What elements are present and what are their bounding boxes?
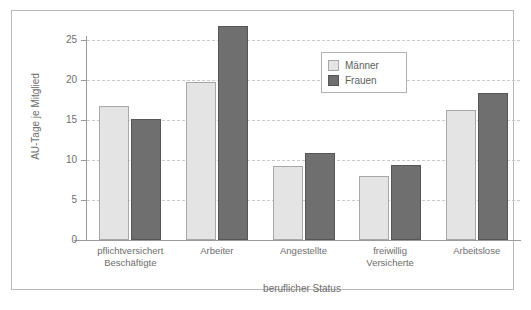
bar-maenner <box>99 106 129 240</box>
bar-maenner <box>186 82 216 240</box>
y-axis-tick-label: 0 <box>37 234 77 245</box>
y-axis-tick-label: 20 <box>37 74 77 85</box>
bar-frauen <box>131 119 161 240</box>
legend-item-frauen: Frauen <box>328 73 400 88</box>
legend-item-maenner: Männer <box>328 58 400 73</box>
y-axis-tick-label: 15 <box>37 114 77 125</box>
legend: Männer Frauen <box>321 52 407 93</box>
gridline <box>87 40 520 41</box>
legend-label-frauen: Frauen <box>345 75 377 86</box>
y-axis-tick-label: 10 <box>37 154 77 165</box>
bar-maenner <box>359 176 389 240</box>
bar-frauen <box>305 153 335 240</box>
legend-label-maenner: Männer <box>345 60 379 71</box>
y-axis-tick <box>81 120 87 121</box>
chart-figure: 0510152025 AU-Tage je Mitglied beruflich… <box>0 0 531 310</box>
y-axis-title: AU-Tage je Mitglied <box>30 32 41 202</box>
x-axis-title: beruflicher Status <box>227 283 377 294</box>
chart-frame: 0510152025 AU-Tage je Mitglied beruflich… <box>11 10 514 290</box>
legend-swatch-frauen-icon <box>328 75 339 86</box>
y-axis-tick <box>81 80 87 81</box>
legend-swatch-maenner-icon <box>328 60 339 71</box>
y-axis-tick <box>81 160 87 161</box>
y-axis-tick <box>81 240 87 241</box>
bar-maenner <box>446 110 476 240</box>
bar-frauen <box>391 165 421 240</box>
bar-maenner <box>273 166 303 240</box>
bar-frauen <box>218 26 248 240</box>
y-axis-line <box>86 36 87 241</box>
y-axis-tick-label: 25 <box>37 34 77 45</box>
y-axis-tick-label: 5 <box>37 194 77 205</box>
y-axis-tick <box>81 40 87 41</box>
y-axis-tick <box>81 200 87 201</box>
gridline <box>87 80 520 81</box>
x-axis-line <box>74 240 521 241</box>
bar-frauen <box>478 93 508 240</box>
category-label: Arbeitslose <box>417 245 531 257</box>
